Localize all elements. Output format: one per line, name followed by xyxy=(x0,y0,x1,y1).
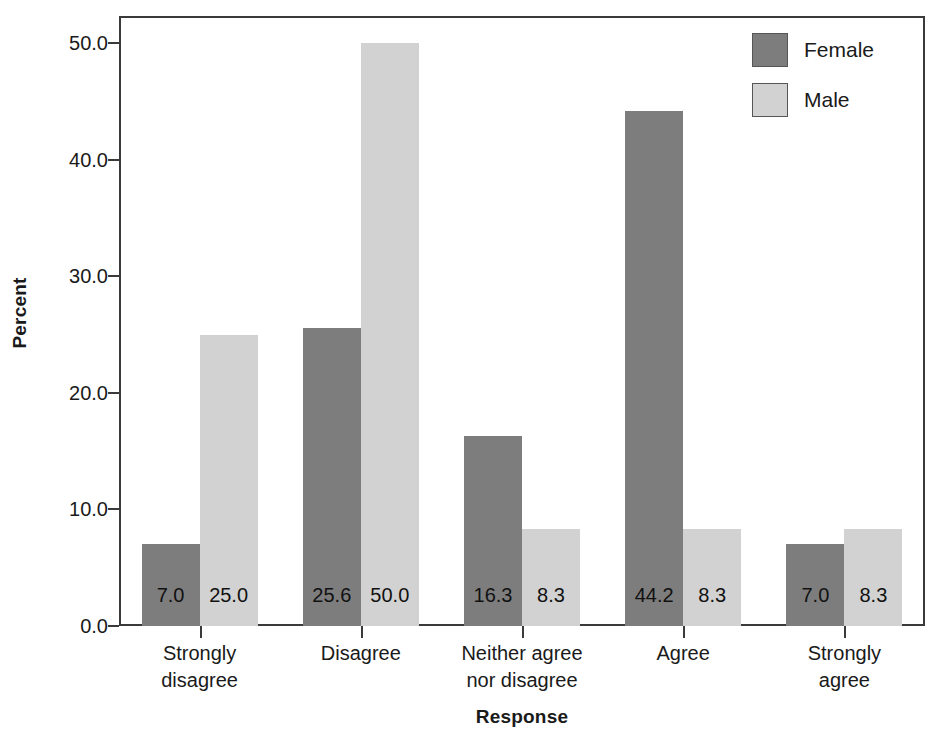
x-axis-tick-mark xyxy=(361,626,363,638)
x-axis-tick-label: Disagree xyxy=(321,640,401,667)
x-axis-tick-label-line: disagree xyxy=(161,667,238,694)
bar-female-0 xyxy=(142,544,200,626)
legend-label: Female xyxy=(804,38,874,62)
bar-female-1 xyxy=(303,328,361,626)
x-axis-tick-label-line: nor disagree xyxy=(461,667,582,694)
legend: FemaleMale xyxy=(752,28,912,128)
legend-item-male[interactable]: Male xyxy=(752,78,912,122)
y-axis-tick-mark xyxy=(108,159,119,161)
bar-chart: Percent 0.010.020.030.040.050.0 7.025.02… xyxy=(0,0,938,748)
y-axis-tick-labels: 0.010.020.030.040.050.0 xyxy=(30,0,108,748)
y-axis-tick-label: 20.0 xyxy=(36,381,108,404)
y-axis-tick-label: 0.0 xyxy=(36,615,108,638)
legend-swatch-icon xyxy=(752,83,788,117)
y-axis-tick-mark xyxy=(108,42,119,44)
bar-male-3 xyxy=(683,529,741,626)
bar-female-2 xyxy=(464,436,522,626)
y-axis-tick-label: 30.0 xyxy=(36,265,108,288)
y-axis-tick-mark xyxy=(108,625,119,627)
x-axis-tick-label-line: Neither agree xyxy=(461,640,582,667)
x-axis-tick-label: Stronglyagree xyxy=(808,640,881,694)
y-axis-tick-mark xyxy=(108,392,119,394)
x-axis-tick-label-line: Disagree xyxy=(321,640,401,667)
x-axis-tick-label-line: agree xyxy=(808,667,881,694)
x-axis-tick-label-line: Strongly xyxy=(808,640,881,667)
legend-swatch-icon xyxy=(752,33,788,67)
y-axis-title-text: Percent xyxy=(9,277,31,348)
bar-male-1 xyxy=(361,43,419,626)
x-axis-tick-label-line: Agree xyxy=(657,640,710,667)
x-axis-tick-label: Agree xyxy=(657,640,710,667)
y-axis-tick-mark xyxy=(108,508,119,510)
bar-male-0 xyxy=(200,335,258,627)
x-axis-tick-label: Neither agreenor disagree xyxy=(461,640,582,694)
legend-item-female[interactable]: Female xyxy=(752,28,912,72)
x-axis-tick-mark xyxy=(522,626,524,638)
x-axis-tick-label: Stronglydisagree xyxy=(161,640,238,694)
x-axis-tick-mark xyxy=(683,626,685,638)
bar-female-3 xyxy=(625,111,683,626)
bar-male-2 xyxy=(522,529,580,626)
x-axis-tick-label-line: Strongly xyxy=(161,640,238,667)
x-axis-title: Response xyxy=(119,706,925,728)
y-axis-tick-mark xyxy=(108,275,119,277)
x-axis-tick-mark xyxy=(200,626,202,638)
bar-male-4 xyxy=(844,529,902,626)
x-axis-tick-marks xyxy=(119,626,925,640)
y-axis-tick-label: 40.0 xyxy=(36,148,108,171)
y-axis-tick-label: 50.0 xyxy=(36,32,108,55)
x-axis-tick-labels: StronglydisagreeDisagreeNeither agreenor… xyxy=(119,640,925,706)
legend-label: Male xyxy=(804,88,850,112)
y-axis-tick-label: 10.0 xyxy=(36,498,108,521)
bar-female-4 xyxy=(786,544,844,626)
x-axis-tick-mark xyxy=(844,626,846,638)
